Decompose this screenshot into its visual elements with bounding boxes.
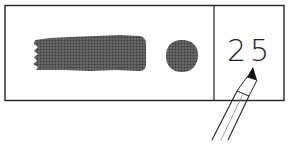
dot-swatch <box>166 40 198 72</box>
value-text: 25 <box>227 33 273 68</box>
handwritten-value: 25 <box>227 33 273 68</box>
swatch-illustration: 25 <box>0 0 293 146</box>
smear-bar-swatch <box>33 35 146 71</box>
